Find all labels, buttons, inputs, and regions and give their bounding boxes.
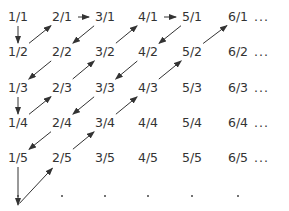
fraction-6-3: 6/3 [228,82,248,95]
fraction-5-5: 5/5 [182,152,202,165]
fraction-2-4: 2/4 [52,117,72,130]
arrow-icon [73,26,94,43]
fraction-6-4: 6/4 [228,117,248,130]
arrow-icon [116,97,137,114]
fraction-1-2: 1/2 [8,46,28,59]
fraction-4-4: 4/4 [138,117,158,130]
row-ellipsis: ... [254,152,269,165]
fraction-6-5: 6/5 [228,152,248,165]
fraction-3-4: 3/4 [95,117,115,130]
fraction-6-2: 6/2 [228,46,248,59]
fraction-3-5: 3/5 [95,152,115,165]
fraction-1-5: 1/5 [8,152,28,165]
row-ellipsis: ... [254,46,269,59]
fraction-6-1: 6/1 [228,11,248,24]
fraction-1-4: 1/4 [8,117,28,130]
arrow-icon [73,132,94,149]
arrow-icon [116,26,137,43]
arrow-icon [29,132,51,150]
column-continuation-dot [17,195,19,197]
column-continuation-dot [237,195,239,197]
fraction-4-5: 4/5 [138,152,158,165]
fraction-3-2: 3/2 [95,46,115,59]
fraction-5-3: 5/3 [182,82,202,95]
arrow-icon [159,26,181,44]
arrow-icon [73,61,95,79]
fraction-4-1: 4/1 [138,11,158,24]
fraction-3-1: 3/1 [95,11,115,24]
arrow-icon [159,61,181,79]
row-ellipsis: ... [254,82,269,95]
arrow-icon [29,26,51,44]
fraction-2-2: 2/2 [52,46,72,59]
arrow-icon [116,61,138,79]
column-continuation-dot [147,195,149,197]
fraction-2-1: 2/1 [52,11,72,24]
fraction-4-3: 4/3 [138,82,158,95]
column-continuation-dot [191,195,193,197]
fraction-3-3: 3/3 [95,82,115,95]
fraction-1-1: 1/1 [8,11,28,24]
arrow-icon [29,97,51,115]
fraction-5-2: 5/2 [182,46,202,59]
arrow-icon [29,61,51,79]
fraction-5-1: 5/1 [182,11,202,24]
column-continuation-dot [104,195,106,197]
arrow-icon [19,168,52,203]
fraction-2-5: 2/5 [52,152,72,165]
fraction-5-4: 5/4 [182,117,202,130]
arrow-icon [73,97,94,114]
row-ellipsis: ... [254,11,269,24]
arrow-icon [203,26,227,44]
row-ellipsis: ... [254,117,269,130]
arrows-layer [0,0,289,211]
fraction-4-2: 4/2 [138,46,158,59]
column-continuation-dot [61,195,63,197]
fraction-1-3: 1/3 [8,82,28,95]
fraction-2-3: 2/3 [52,82,72,95]
